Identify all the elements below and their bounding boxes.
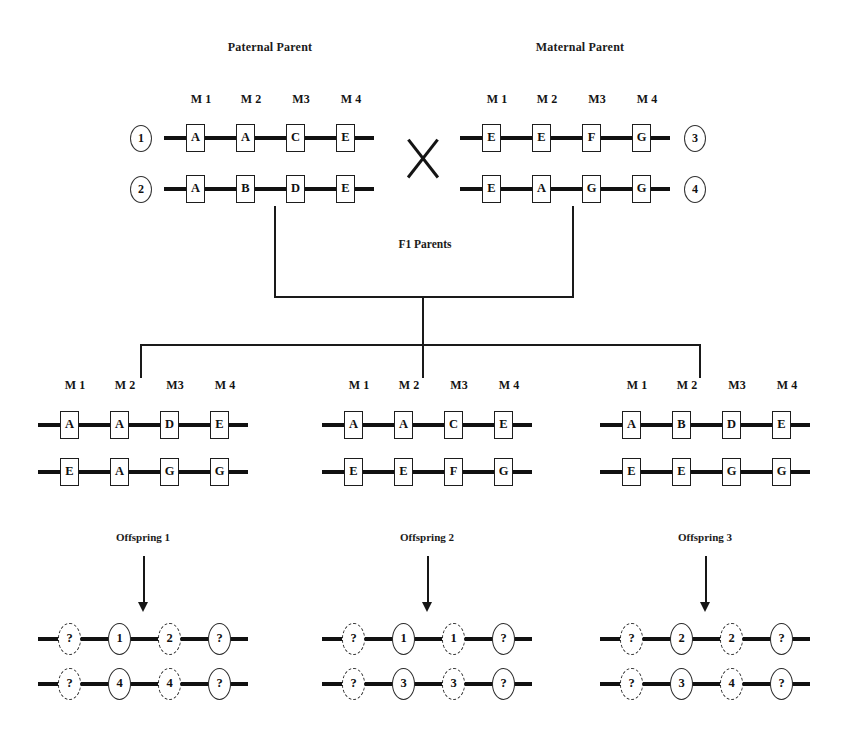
allele-ellipse-m4: ? [770,623,793,655]
arrow-shaft [705,556,707,602]
f1-parents-title: F1 Parents [345,238,505,250]
allele-ellipse-m1: ? [342,668,365,700]
allele-box-m3: F [582,124,601,152]
allele-ellipse-m3: 3 [442,668,465,700]
allele-box-m1: A [622,411,641,439]
paternal-parent-title: Paternal Parent [190,40,350,55]
allele-ellipse-m2: 3 [670,668,693,700]
connector-offspring-bar [140,344,701,346]
allele-box-m1: A [186,175,205,203]
connector-drop-group-3 [699,344,701,378]
allele-ellipse-m1: ? [58,668,81,700]
arrow-shaft [427,556,429,602]
marker-label-3: M3 [722,378,752,393]
allele-box-m3: D [286,175,305,203]
connector-drop-group-2 [422,344,424,378]
allele-ellipse-m4: ? [208,668,231,700]
allele-box-m2: A [236,124,255,152]
marker-label-1: M 1 [344,378,374,393]
f1-group-3-chromosome-2: EEGG [600,455,810,489]
allele-box-m4: E [772,411,791,439]
allele-box-m3: G [722,458,741,486]
allele-ellipse-m2: 1 [108,623,131,655]
allele-box-m2: A [110,458,129,486]
chromosome-index-2: 2 [130,176,152,203]
marker-label-1: M 1 [186,92,216,107]
f1-group-1-chromosome-2: EAGG [38,455,248,489]
marker-label-3: M3 [160,378,190,393]
marker-label-1: M 1 [60,378,90,393]
allele-ellipse-m4: ? [492,623,515,655]
allele-ellipse-m2: 4 [108,668,131,700]
marker-label-4: M 4 [632,92,662,107]
allele-ellipse-m4: ? [770,668,793,700]
allele-box-m2: A [394,411,413,439]
allele-box-m2: B [236,175,255,203]
allele-box-m4: G [210,458,229,486]
allele-ellipse-m1: ? [342,623,365,655]
allele-ellipse-m3: 4 [158,668,181,700]
allele-box-m2: A [532,175,551,203]
allele-ellipse-m3: 2 [158,623,181,655]
allele-ellipse-m2: 3 [392,668,415,700]
allele-ellipse-m1: ? [620,623,643,655]
allele-box-m1: E [622,458,641,486]
chromosome-index-4: 4 [684,176,706,203]
allele-box-m4: G [632,175,651,203]
allele-box-m4: E [336,175,355,203]
allele-box-m1: A [186,124,205,152]
genetics-pedigree-diagram: Paternal Parent Maternal Parent M 1M 2M3… [0,0,842,736]
marker-label-2: M 2 [236,92,266,107]
offspring-3-chromosome-1: ?22? [600,622,810,656]
arrow-head [700,602,710,612]
allele-box-m2: E [532,124,551,152]
marker-label-2: M 2 [532,92,562,107]
offspring-1-chromosome-1: ?12? [38,622,248,656]
allele-ellipse-m2: 1 [392,623,415,655]
paternal-chromosome-1: AACE [164,121,374,155]
offspring-3-chromosome-2: ?34? [600,667,810,701]
paternal-chromosome-2: ABDE [164,172,374,206]
allele-box-m1: A [60,411,79,439]
arrow-shaft [143,556,145,602]
marker-label-2: M 2 [394,378,424,393]
allele-box-m4: E [210,411,229,439]
marker-label-2: M 2 [672,378,702,393]
maternal-chromosome-3: EEFG [460,121,670,155]
allele-box-m2: B [672,411,691,439]
offspring-2-chromosome-2: ?33? [322,667,532,701]
offspring-title-3: Offspring 3 [635,531,775,543]
allele-ellipse-m3: 4 [720,668,743,700]
chromosome-index-3: 3 [684,125,706,152]
marker-label-3: M3 [582,92,612,107]
allele-box-m1: E [482,175,501,203]
allele-box-m2: E [672,458,691,486]
marker-label-1: M 1 [482,92,512,107]
allele-box-m3: C [444,411,463,439]
allele-ellipse-m1: ? [620,668,643,700]
allele-box-m3: G [160,458,179,486]
arrow-head [422,602,432,612]
allele-box-m4: G [632,124,651,152]
allele-box-m3: D [160,411,179,439]
allele-ellipse-m4: ? [492,668,515,700]
allele-box-m3: C [286,124,305,152]
connector-to-offspring-bar [422,296,424,346]
allele-box-m1: A [344,411,363,439]
f1-group-1-chromosome-1: AADE [38,408,248,442]
chromosome-index-1: 1 [130,125,152,152]
offspring-title-1: Offspring 1 [73,531,213,543]
allele-box-m2: A [110,411,129,439]
maternal-parent-title: Maternal Parent [500,40,660,55]
allele-box-m4: E [336,124,355,152]
allele-box-m4: G [494,458,513,486]
allele-box-m4: G [772,458,791,486]
marker-label-2: M 2 [110,378,140,393]
allele-box-m1: E [482,124,501,152]
connector-maternal-drop [572,206,574,298]
allele-box-m1: E [60,458,79,486]
arrow-head [138,602,148,612]
offspring-arrow-icon-1 [138,556,149,612]
marker-label-1: M 1 [622,378,652,393]
connector-paternal-drop [274,206,276,298]
